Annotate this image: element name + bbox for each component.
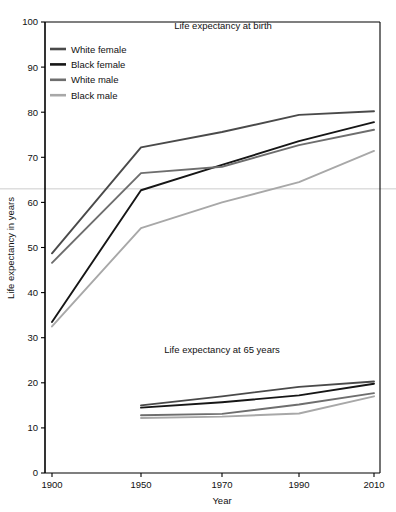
y-tick-label: 80 bbox=[27, 107, 38, 118]
y-axis-title: Life expectancy in years bbox=[5, 197, 16, 299]
y-tick-label: 50 bbox=[27, 242, 38, 253]
legend-label: Black male bbox=[71, 90, 117, 101]
legend-label: Black female bbox=[71, 59, 125, 70]
x-tick-label: 1990 bbox=[288, 479, 309, 490]
panel-title-upper: Life expectancy at birth bbox=[174, 20, 272, 31]
legend-label: White female bbox=[71, 44, 126, 55]
x-tick-label: 1950 bbox=[130, 479, 151, 490]
y-tick-label: 60 bbox=[27, 197, 38, 208]
y-tick-label: 10 bbox=[27, 422, 38, 433]
y-tick-label: 90 bbox=[27, 62, 38, 73]
chart-canvas: 0102030405060708090100 19001950197019902… bbox=[0, 0, 396, 512]
x-axis-title: Year bbox=[212, 495, 231, 506]
y-tick-label: 20 bbox=[27, 377, 38, 388]
y-tick-label: 40 bbox=[27, 287, 38, 298]
life-expectancy-chart: 0102030405060708090100 19001950197019902… bbox=[0, 0, 396, 512]
x-tick-label: 2010 bbox=[363, 479, 384, 490]
y-tick-label: 0 bbox=[33, 467, 38, 478]
y-tick-label: 100 bbox=[22, 16, 38, 27]
y-tick-label: 70 bbox=[27, 152, 38, 163]
y-tick-label: 30 bbox=[27, 332, 38, 343]
x-tick-label: 1900 bbox=[41, 479, 62, 490]
panel-title-lower: Life expectancy at 65 years bbox=[164, 344, 280, 355]
x-tick-label: 1970 bbox=[211, 479, 232, 490]
legend-label: White male bbox=[71, 74, 119, 85]
